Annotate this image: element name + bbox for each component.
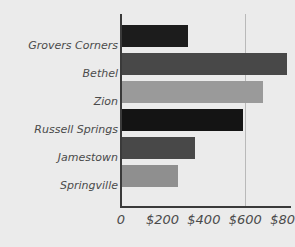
- value-axis-labels: 0 $200 $400 $600 $800: [0, 212, 295, 236]
- bar-bethel: [121, 53, 287, 75]
- tick-label-600: $600: [229, 212, 262, 227]
- tick-label-400: $400: [187, 212, 220, 227]
- category-label-zion: Zion: [0, 95, 118, 109]
- bar-zion: [121, 81, 263, 103]
- category-label-russell-springs: Russell Springs: [0, 123, 118, 137]
- bar-grovers-corners: [121, 25, 188, 47]
- plot-area: [121, 14, 295, 207]
- category-axis-labels: Grovers Corners Bethel Zion Russell Spri…: [0, 14, 118, 207]
- category-label-bethel: Bethel: [0, 67, 118, 81]
- y-axis-line: [120, 14, 122, 208]
- tick-label-0: 0: [117, 212, 125, 227]
- category-label-springville: Springville: [0, 179, 118, 193]
- bar-russell-springs: [121, 109, 243, 131]
- tick-label-200: $200: [146, 212, 179, 227]
- category-label-grovers-corners: Grovers Corners: [0, 39, 118, 53]
- x-axis-line: [120, 206, 291, 208]
- bar-chart: Grovers Corners Bethel Zion Russell Spri…: [0, 0, 295, 247]
- bar-springville: [121, 165, 178, 187]
- category-label-jamestown: Jamestown: [0, 151, 118, 165]
- tick-label-800: $800: [270, 212, 295, 227]
- bar-jamestown: [121, 137, 195, 159]
